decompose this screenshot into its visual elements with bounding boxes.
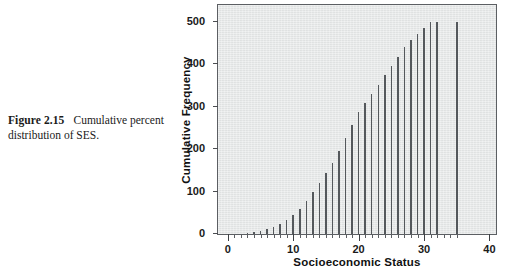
x-axis-major-tick: [293, 234, 294, 241]
x-axis-minor-tick: [404, 234, 405, 238]
x-axis-minor-tick: [365, 234, 366, 238]
x-axis-minor-tick: [274, 234, 275, 238]
figure-caption-label: Figure 2.15: [8, 114, 64, 126]
x-axis-minor-tick: [431, 234, 432, 238]
x-axis-minor-tick: [339, 234, 340, 238]
plot-area: 0100200300400500 010203040: [217, 4, 497, 235]
x-axis-minor-tick: [254, 234, 255, 238]
y-axis-tick-label: 300: [187, 100, 205, 112]
x-axis-major-tick: [359, 234, 360, 241]
x-axis-minor-tick: [267, 234, 268, 238]
x-axis-tick-label: 10: [287, 243, 299, 255]
y-axis-tick-label: 500: [187, 15, 205, 27]
x-axis-ticks: 010203040: [218, 5, 496, 234]
y-axis-tick-label: 200: [187, 142, 205, 154]
x-axis-minor-tick: [450, 234, 451, 238]
y-axis-tick-label: 0: [199, 227, 205, 239]
x-axis-minor-tick: [300, 234, 301, 238]
x-axis-minor-tick: [444, 234, 445, 238]
x-axis-minor-tick: [319, 234, 320, 238]
y-axis-title: Cumulative Frequency: [178, 4, 194, 235]
x-axis-minor-tick: [411, 234, 412, 238]
x-axis-minor-tick: [437, 234, 438, 238]
x-axis-minor-tick: [247, 234, 248, 238]
x-axis-minor-tick: [352, 234, 353, 238]
x-axis-minor-tick: [391, 234, 392, 238]
figure-caption: Figure 2.15Cumulative percent distributi…: [8, 113, 168, 143]
x-axis-minor-tick: [287, 234, 288, 238]
x-axis-tick-label: 40: [483, 243, 495, 255]
x-axis-minor-tick: [313, 234, 314, 238]
y-axis-title-text: Cumulative Frequency: [180, 56, 192, 183]
chart-figure: Cumulative Frequency 0100200300400500 01…: [176, 0, 513, 274]
x-axis-minor-tick: [398, 234, 399, 238]
x-axis-minor-tick: [372, 234, 373, 238]
y-axis-tick-label: 400: [187, 57, 205, 69]
x-axis-tick-label: 20: [353, 243, 365, 255]
x-axis-minor-tick: [261, 234, 262, 238]
x-axis-major-tick: [424, 234, 425, 241]
x-axis-minor-tick: [326, 234, 327, 238]
x-axis-tick-label: 30: [418, 243, 430, 255]
x-axis-minor-tick: [385, 234, 386, 238]
x-axis-minor-tick: [346, 234, 347, 238]
x-axis-minor-tick: [234, 234, 235, 238]
x-axis-major-tick: [489, 234, 490, 241]
figure-page: Figure 2.15Cumulative percent distributi…: [0, 0, 513, 274]
x-axis-minor-tick: [332, 234, 333, 238]
x-axis-minor-tick: [418, 234, 419, 238]
x-axis-minor-tick: [241, 234, 242, 238]
y-axis-tick-label: 100: [187, 185, 205, 197]
x-axis-major-tick: [228, 234, 229, 241]
x-axis-minor-tick: [378, 234, 379, 238]
x-axis-tick-label: 0: [225, 243, 231, 255]
x-axis-title: Socioeconomic Status: [217, 256, 497, 268]
x-axis-minor-tick: [306, 234, 307, 238]
x-axis-minor-tick: [457, 234, 458, 238]
x-axis-minor-tick: [280, 234, 281, 238]
